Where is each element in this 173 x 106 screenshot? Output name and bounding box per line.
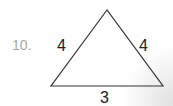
side-label-left: 4	[57, 37, 66, 54]
side-label-right: 4	[139, 37, 148, 54]
side-label-base: 3	[100, 89, 109, 106]
problem-number: 10.	[12, 37, 31, 53]
triangle-figure: 10. 4 4 3	[0, 0, 173, 106]
